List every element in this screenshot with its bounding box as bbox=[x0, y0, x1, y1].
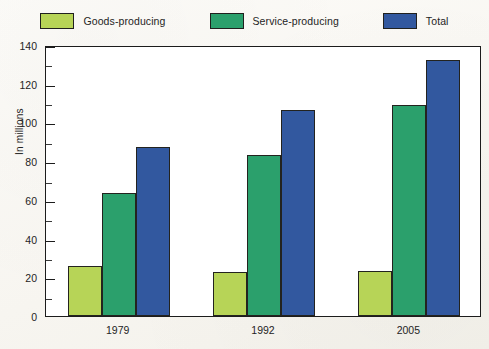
y-tick-major bbox=[46, 86, 55, 87]
plot-frame bbox=[45, 46, 481, 317]
bar-1992-total[interactable] bbox=[281, 110, 315, 316]
y-tick-label: 80 bbox=[3, 156, 37, 168]
legend-swatch-goods-producing bbox=[40, 13, 74, 29]
legend-item-goods-producing: Goods-producing bbox=[40, 13, 165, 29]
plot-area bbox=[46, 47, 480, 316]
y-tick-major bbox=[46, 202, 55, 203]
bar-2005-total[interactable] bbox=[426, 60, 460, 316]
bar-2005-service[interactable] bbox=[392, 105, 426, 316]
y-tick-minor bbox=[46, 221, 52, 222]
y-tick-major bbox=[46, 241, 55, 242]
y-axis-title: In millions bbox=[14, 108, 25, 155]
y-tick-minor bbox=[46, 105, 52, 106]
legend-item-service-producing: Service-producing bbox=[210, 13, 339, 29]
bar-group-1979 bbox=[68, 47, 170, 316]
bar-1979-goods[interactable] bbox=[68, 266, 102, 316]
x-tick-label-2005: 2005 bbox=[397, 324, 420, 336]
bar-group-2005 bbox=[358, 47, 460, 316]
legend-swatch-service-producing bbox=[210, 13, 244, 29]
legend-label-service-producing: Service-producing bbox=[253, 15, 339, 27]
legend-label-total: Total bbox=[426, 15, 449, 27]
bar-1979-total[interactable] bbox=[136, 147, 170, 316]
y-tick-major bbox=[46, 279, 55, 280]
chart-legend: Goods-producing Service-producing Total bbox=[0, 8, 489, 34]
bar-2005-goods[interactable] bbox=[358, 271, 392, 316]
y-tick-major bbox=[46, 47, 55, 48]
y-tick-label: 120 bbox=[3, 79, 37, 91]
y-tick-label: 40 bbox=[3, 234, 37, 246]
bar-1992-goods[interactable] bbox=[213, 272, 247, 316]
y-tick-minor bbox=[46, 299, 52, 300]
y-tick-major bbox=[46, 124, 55, 125]
y-tick-minor bbox=[46, 183, 52, 184]
y-tick-label: 100 bbox=[3, 117, 37, 129]
y-tick-major bbox=[46, 163, 55, 164]
legend-item-total: Total bbox=[383, 13, 449, 29]
y-tick-label: 60 bbox=[3, 195, 37, 207]
bar-group-1992 bbox=[213, 47, 315, 316]
legend-label-goods-producing: Goods-producing bbox=[83, 15, 165, 27]
x-tick-label-1992: 1992 bbox=[251, 324, 274, 336]
bar-1992-service[interactable] bbox=[247, 155, 281, 316]
y-tick-label: 0 bbox=[3, 311, 37, 323]
y-tick-minor bbox=[46, 260, 52, 261]
y-tick-label: 20 bbox=[3, 272, 37, 284]
legend-swatch-total bbox=[383, 13, 417, 29]
y-tick-minor bbox=[46, 144, 52, 145]
bar-chart: Goods-producing Service-producing Total … bbox=[0, 0, 489, 349]
y-tick-minor bbox=[46, 66, 52, 67]
y-tick-label: 140 bbox=[3, 40, 37, 52]
bar-1979-service[interactable] bbox=[102, 193, 136, 316]
x-tick-label-1979: 1979 bbox=[106, 324, 129, 336]
